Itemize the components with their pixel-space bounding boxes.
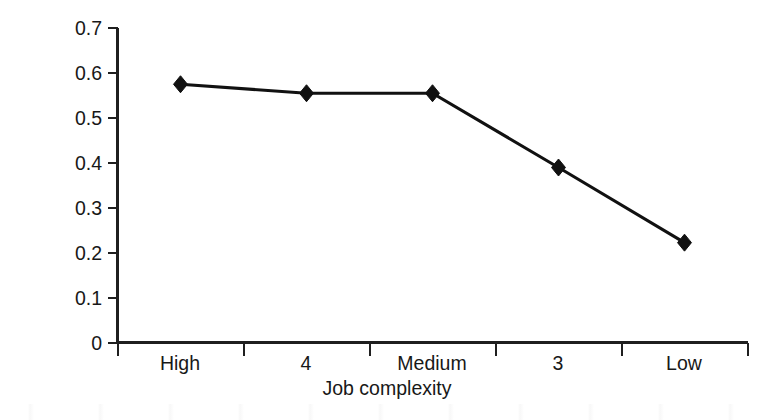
data-point-4 [300, 85, 314, 102]
y-tick-label-0.1: 0.1 [52, 289, 102, 309]
y-tick-label-0.2: 0.2 [52, 244, 102, 264]
data-point-high [174, 76, 188, 93]
x-axis-title: Job complexity [0, 379, 774, 399]
data-point-low [678, 234, 692, 251]
data-point-medium [426, 85, 440, 102]
validity-series-line [181, 84, 685, 242]
line-chart: 0.7 0.6 0.5 0.4 0.3 0.2 0.1 0 High 4 Med… [0, 0, 774, 420]
data-point-3 [552, 159, 566, 176]
x-tick-label-4: 4 [243, 354, 369, 374]
y-tick-label-0.6: 0.6 [52, 64, 102, 84]
x-tick-label-3: 3 [495, 354, 621, 374]
data-point-markers [174, 76, 692, 251]
x-tick-label-medium: Medium [369, 354, 495, 374]
y-tick-label-0.3: 0.3 [52, 199, 102, 219]
x-tick-label-high: High [117, 354, 243, 374]
y-tick-label-0.7: 0.7 [52, 19, 102, 39]
x-tick-label-low: Low [621, 354, 747, 374]
y-tick-label-0: 0 [52, 334, 102, 354]
y-tick-label-0.4: 0.4 [52, 154, 102, 174]
y-tick-label-0.5: 0.5 [52, 109, 102, 129]
